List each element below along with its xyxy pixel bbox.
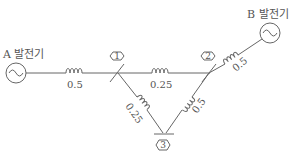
generator-b: B 발전기 xyxy=(247,8,289,43)
line-bus2-gen-b-upper xyxy=(238,39,262,55)
bus-1-label: 1 xyxy=(114,51,120,61)
generator-a: A 발전기 xyxy=(2,48,44,83)
impedance-bus2-gen-b: 0.5 xyxy=(230,55,249,74)
power-system-diagram: A 발전기 0.5 1 0.25 2 0.5 B 발전기 0.25 xyxy=(0,0,297,159)
impedance-bus1-bus3: 0.25 xyxy=(123,101,145,126)
line-bus1-bus3-upper xyxy=(118,73,137,97)
impedance-bus1-bus2: 0.25 xyxy=(150,79,172,90)
inductor-icon xyxy=(66,69,82,74)
line-bus2-bus3-lower xyxy=(166,110,182,133)
bus-3-label: 3 xyxy=(160,140,166,150)
inductor-icon xyxy=(152,69,168,74)
impedance-bus2-bus3: 0.5 xyxy=(190,96,208,115)
generator-a-label: A 발전기 xyxy=(2,48,44,61)
line-bus2-gen-b-lower xyxy=(209,64,225,73)
impedance-gen-a-bus1: 0.5 xyxy=(67,79,83,90)
bus-3: 3 xyxy=(154,134,174,150)
generator-b-label: B 발전기 xyxy=(247,8,289,21)
inductor-icon xyxy=(137,94,150,109)
sine-wave-icon xyxy=(9,70,23,76)
line-bus2-bus3-upper xyxy=(192,73,209,97)
bus-2-label: 2 xyxy=(205,51,211,61)
sine-wave-icon xyxy=(263,30,277,36)
line-bus1-bus3-lower xyxy=(147,110,163,133)
bus-2: 2 xyxy=(201,51,216,82)
